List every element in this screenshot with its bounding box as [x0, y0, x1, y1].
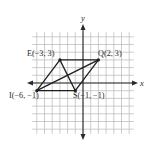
label-E: E(−3, 3) — [27, 49, 55, 58]
x-axis-right-arrow-icon — [132, 81, 138, 86]
coordinate-plane-figure: x y E(−3, 3) Q(2, 3) S(−1, −1) I(−6, −1) — [0, 0, 151, 148]
vertex-Q — [97, 58, 100, 61]
y-axis-down-arrow-icon — [81, 134, 86, 140]
label-I: I(−6, −1) — [9, 91, 39, 100]
y-axis-up-arrow-icon — [81, 24, 86, 30]
x-axis-label: x — [139, 78, 144, 88]
label-Q: Q(2, 3) — [98, 49, 122, 58]
label-S: S(−1, −1) — [73, 91, 105, 100]
y-axis-label: y — [80, 13, 85, 23]
vertex-E — [58, 58, 61, 61]
x-axis-left-arrow-icon — [27, 81, 33, 86]
